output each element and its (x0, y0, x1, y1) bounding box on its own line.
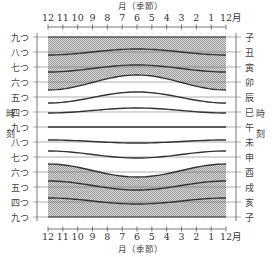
month-tick-label: 3 (178, 231, 184, 242)
left-hour-label: 八つ (11, 138, 29, 148)
month-tick-label: 10 (72, 231, 84, 242)
month-tick-label: 5 (149, 12, 155, 23)
left-hour-label: 六つ (11, 167, 29, 178)
right-zodiac-label: 午 (245, 122, 254, 133)
month-tick-label: 1 (208, 231, 214, 242)
month-tick-label: 4 (164, 12, 170, 23)
month-tick-label: 3 (178, 12, 184, 23)
right-zodiac-label: 亥 (245, 197, 254, 208)
month-tick-label: 4 (164, 231, 170, 242)
month-unit-label: 月 (232, 231, 242, 242)
month-tick-label: 6 (134, 12, 140, 23)
temporal-hours-chart: 月（季節） 月（季節） 12111098765432112月 121110987… (0, 0, 272, 257)
bottom-axis-title: 月（季節） (118, 244, 163, 254)
right-zodiac-label: 子 (245, 213, 254, 223)
left-hour-label: 四つ (11, 198, 29, 208)
month-tick-label: 1 (208, 12, 214, 23)
right-title-ji: 時 (256, 109, 265, 119)
month-tick-label: 8 (104, 231, 110, 242)
month-tick-label: 12 (220, 12, 232, 23)
month-tick-label: 7 (119, 12, 125, 23)
month-tick-label: 5 (149, 231, 155, 242)
right-zodiac-label: 酉 (245, 168, 254, 178)
right-zodiac-label: 丑 (245, 48, 254, 58)
left-hour-label: 七つ (11, 153, 29, 163)
right-zodiac-label: 申 (245, 152, 254, 163)
month-tick-label: 12 (42, 231, 54, 242)
month-tick-label: 11 (57, 231, 69, 242)
month-tick-label: 2 (193, 231, 199, 242)
month-tick-label: 2 (193, 12, 199, 23)
right-zodiac-label: 卯 (245, 78, 254, 88)
top-axis-title: 月（季節） (118, 1, 163, 11)
right-zodiac-label: 戌 (245, 182, 254, 193)
month-tick-label: 6 (134, 231, 140, 242)
bottom-month-axis: 12111098765432112月 (42, 227, 242, 243)
right-zodiac-label: 未 (245, 137, 254, 148)
month-tick-label: 11 (57, 12, 69, 23)
left-hour-label: 九つ (11, 33, 29, 43)
right-zodiac-label: 寅 (245, 62, 254, 73)
month-tick-label: 10 (72, 12, 84, 23)
left-title-koku: 刻 (6, 128, 15, 139)
left-hour-label: 七つ (11, 63, 29, 73)
month-tick-label: 12 (42, 12, 54, 23)
month-tick-label: 9 (89, 12, 95, 23)
right-zodiac-label: 子 (245, 33, 254, 43)
left-title-ji: 時 (6, 109, 15, 119)
top-month-axis: 12111098765432112月 (42, 12, 242, 30)
month-tick-label: 8 (104, 12, 110, 23)
right-zodiac-label: 巳 (245, 108, 254, 118)
right-zodiac-label: 辰 (245, 93, 254, 103)
hour-boundary-curve (48, 92, 226, 103)
left-hour-label: 六つ (11, 77, 29, 88)
left-hour-label: 五つ (11, 93, 29, 103)
left-hour-label: 九つ (11, 213, 29, 223)
month-unit-label: 月 (232, 12, 242, 23)
left-hour-label: 五つ (11, 183, 29, 193)
month-tick-label: 12 (220, 231, 232, 242)
right-title-koku: 刻 (256, 128, 265, 139)
month-tick-label: 7 (119, 231, 125, 242)
month-tick-label: 9 (89, 231, 95, 242)
left-hour-label: 八つ (11, 48, 29, 58)
hour-boundary-curve (48, 140, 226, 143)
